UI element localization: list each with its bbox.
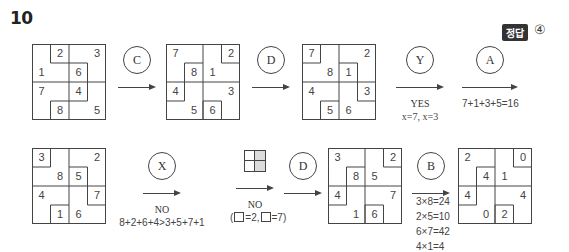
grid-cell-value: 3 (358, 84, 376, 98)
grid-cell-value: 5 (185, 103, 203, 117)
product-line: 2×5=10 (416, 209, 450, 224)
grid-cell-value: 1 (33, 65, 51, 79)
grid-cell-value: 6 (340, 103, 358, 117)
arrow-icon (462, 84, 518, 92)
grid-row2-start: 32854716 (32, 148, 106, 224)
grid-cell-value: 7 (303, 46, 321, 60)
grid-cell-value: 4 (70, 84, 88, 98)
product-line: 3×8=24 (416, 194, 450, 209)
grid-cell-value: 7 (167, 46, 185, 60)
grid-cell-value: 2 (496, 207, 514, 221)
grid-cell-value: 2 (459, 150, 477, 164)
grid-cell-value: 4 (459, 188, 477, 202)
arrow-icon (236, 185, 274, 193)
grid-cell-value: 3 (33, 150, 51, 164)
y-result: YES (396, 98, 444, 109)
grid-cell-value: 4 (33, 188, 51, 202)
op-a-circle: A (476, 46, 504, 74)
op-y-circle: Y (406, 46, 434, 74)
grid-cell-value: 8 (321, 65, 339, 79)
grid-cell-value: 4 (167, 84, 185, 98)
grid-final: 20414402 (458, 148, 532, 224)
grid-cell-value: 4 (514, 188, 532, 202)
grid-cell-value: 7 (88, 188, 106, 202)
grid-after-c: 72814356 (166, 44, 240, 120)
grid-cell-value: 8 (185, 65, 203, 79)
grid-cell-value: 1 (347, 207, 365, 221)
grid-cell-value: 4 (329, 188, 347, 202)
grid-cell-value: 3 (222, 84, 240, 98)
y-note: x=7, x=3 (396, 111, 444, 122)
grid-cell-value: 2 (384, 150, 402, 164)
grid-cell-value: 6 (204, 103, 222, 117)
grid-cell-value: 5 (70, 169, 88, 183)
arrow-icon (252, 84, 290, 92)
grid-cell-value: 3 (88, 46, 106, 60)
arrow-icon (118, 84, 156, 92)
grid-cell-value: 6 (70, 207, 88, 221)
grid-cell-value: 3 (329, 150, 347, 164)
grid-cell-value: 1 (204, 65, 222, 79)
grid-cell-value: 1 (340, 65, 358, 79)
step-d-2: D (284, 152, 322, 198)
question-number: 10 (10, 8, 33, 28)
grid-cell-value: 7 (384, 188, 402, 202)
op-d-circle: D (257, 46, 285, 74)
step-b: B (412, 152, 450, 198)
grid-cell-value: 5 (321, 103, 339, 117)
x-note: 8+2+6+4>3+5+7+1 (112, 217, 212, 228)
product-list: 3×8=24 2×5=10 6×7=42 4×1=4 (416, 194, 450, 252)
grid-cell-value: 0 (477, 207, 495, 221)
op-c-circle: C (123, 46, 151, 74)
answer-badge: 정답 (502, 24, 528, 41)
grid-cell-value: 4 (303, 84, 321, 98)
grid-cell-value: 4 (477, 169, 495, 183)
arrow-icon (284, 190, 322, 198)
grid-cell-value: 2 (88, 150, 106, 164)
mini-grid-icon (244, 150, 266, 172)
step-mini-grid: NO (=2,=7) (230, 150, 280, 223)
grid-after-d: 72814356 (302, 44, 376, 120)
grid-initial: 23167485 (32, 44, 106, 120)
mini-note: (=2,=7) (230, 212, 280, 223)
grid-cell-value: 1 (496, 169, 514, 183)
grid-cell-value: 6 (366, 207, 384, 221)
answer-value: ④ (534, 22, 546, 37)
arrow-icon (143, 190, 181, 198)
arrow-icon (396, 84, 444, 92)
grid-cell-value: 2 (222, 46, 240, 60)
step-x: X NO 8+2+6+4>3+5+7+1 (112, 152, 212, 228)
grid-cell-value: 5 (366, 169, 384, 183)
step-y: Y YES x=7, x=3 (396, 46, 444, 122)
grid-cell-value: 8 (51, 103, 69, 117)
grid-after-d-2: 32854716 (328, 148, 402, 224)
product-line: 4×1=4 (416, 239, 450, 252)
grid-cell-value: 8 (347, 169, 365, 183)
step-d-1: D (252, 46, 290, 92)
step-c: C (118, 46, 156, 92)
grid-cell-value: 5 (88, 103, 106, 117)
grid-cell-value: 7 (33, 84, 51, 98)
op-x-circle: X (148, 152, 176, 180)
grid-cell-value: 2 (358, 46, 376, 60)
grid-cell-value: 1 (51, 207, 69, 221)
product-line: 6×7=42 (416, 224, 450, 239)
grid-cell-value: 6 (70, 65, 88, 79)
grid-cell-value: 2 (51, 46, 69, 60)
x-result: NO (112, 204, 212, 215)
op-d-circle: D (289, 152, 317, 180)
mini-result: NO (230, 199, 280, 210)
a-note: 7+1+3+5=16 (462, 98, 518, 109)
grid-cell-value: 8 (51, 169, 69, 183)
step-a: A 7+1+3+5=16 (462, 46, 518, 109)
grid-cell-value: 0 (514, 150, 532, 164)
op-b-circle: B (417, 152, 445, 180)
